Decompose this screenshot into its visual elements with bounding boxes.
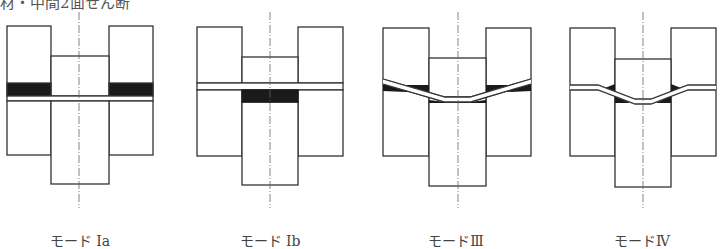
panel-mode-1b <box>197 12 343 208</box>
panel-mode-3 <box>383 12 531 208</box>
center-member-bottom <box>51 101 109 184</box>
center-member-top <box>51 56 109 96</box>
connection-modes-diagram <box>0 0 725 249</box>
left-outer-member-bottom <box>197 90 242 156</box>
label-mode-1a: モード Ia <box>50 230 110 249</box>
label-mode-4: モードⅣ <box>614 230 670 249</box>
left-outer-member-bottom <box>7 101 51 155</box>
label-mode-3: モードⅢ <box>428 230 484 249</box>
right-outer-member-bottom <box>109 101 153 155</box>
embedment-zone-right <box>109 83 153 96</box>
panel-mode-1a <box>7 12 153 208</box>
fastener <box>7 96 153 101</box>
right-outer-member-top <box>298 27 343 83</box>
label-mode-1b: モード Ib <box>240 230 301 249</box>
panel-mode-4 <box>570 12 716 208</box>
center-member <box>429 58 486 186</box>
right-outer-member-bottom <box>298 90 343 156</box>
left-outer-member-top <box>197 27 242 83</box>
embedment-zone-left <box>7 83 51 96</box>
